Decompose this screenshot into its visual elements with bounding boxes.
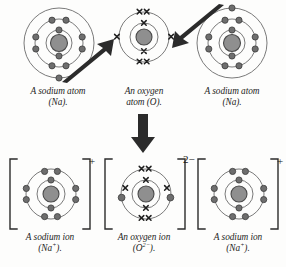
- oxygen-ion: [114, 163, 178, 225]
- charge-oxygen-ion: 2−: [183, 153, 195, 165]
- caption-formula-base: (Na: [38, 243, 52, 253]
- caption-formula-base: (Na: [226, 243, 240, 253]
- caption-sodium-ion-right: A sodium ion (Na+).: [190, 232, 286, 254]
- caption-line-1: A sodium ion: [214, 232, 262, 242]
- caption-line-2: (Na).: [178, 97, 286, 108]
- nucleus: [43, 186, 59, 202]
- charge-sodium-ion-left: +: [89, 155, 95, 167]
- nucleus: [138, 186, 154, 202]
- nucleus: [136, 29, 152, 45]
- caption-line-1: A sodium atom: [31, 86, 86, 96]
- ionic-bonding-figure: A sodium atom (Na). An oxygen atom (O). …: [0, 0, 286, 267]
- sodium-ion-right: [207, 163, 271, 225]
- caption-formula-tail: ).: [56, 243, 61, 253]
- transfer-arrow-left: [56, 36, 118, 88]
- caption-line-2: (O2−).: [96, 243, 192, 254]
- caption-sodium-atom-left: A sodium atom (Na).: [4, 86, 112, 108]
- oxygen-atom: [112, 6, 176, 68]
- sodium-ion-left: [19, 163, 83, 225]
- caption-line-1: An oxygen: [125, 86, 164, 96]
- charge-sodium-ion-right: +: [277, 155, 283, 167]
- caption-line-1: A sodium ion: [26, 232, 74, 242]
- caption-oxygen-atom: An oxygen atom (O).: [102, 86, 186, 108]
- caption-line-2: (Na+).: [190, 243, 286, 254]
- caption-line-2: (Na).: [4, 97, 112, 108]
- caption-formula-charge: 2−: [143, 241, 150, 248]
- caption-sodium-atom-right: A sodium atom (Na).: [178, 86, 286, 108]
- caption-formula-tail: ).: [150, 243, 155, 253]
- caption-oxygen-ion: An oxygen ion (O2−).: [96, 232, 192, 254]
- caption-line-2: (Na+).: [2, 243, 98, 254]
- caption-formula-base: (O: [133, 243, 143, 253]
- reaction-arrow-down: [129, 114, 157, 158]
- transfer-arrow-right: [168, 3, 230, 55]
- caption-line-1: A sodium atom: [205, 86, 260, 96]
- caption-formula-tail: ).: [244, 243, 249, 253]
- caption-line-2: atom (O).: [102, 97, 186, 108]
- caption-sodium-ion-left: A sodium ion (Na+).: [2, 232, 98, 254]
- nucleus: [231, 186, 247, 202]
